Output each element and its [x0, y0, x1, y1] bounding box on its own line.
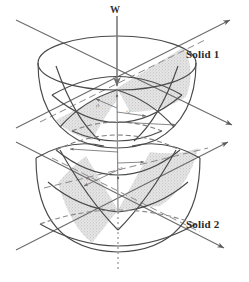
shaded-sector-upper-left — [56, 88, 117, 140]
w-axis-label: W — [110, 4, 120, 15]
dim-arrow-outer-lower — [70, 149, 118, 152]
figure-container: W Solid 1 Solid 2 r1 r2 r1 r2 — [0, 0, 249, 282]
dim-arrow-r2-upper — [117, 112, 146, 116]
w-axis-group — [117, 16, 118, 272]
solid-2-label: Solid 2 — [186, 218, 220, 230]
dim-arrow-r2-lower — [118, 162, 144, 163]
dimension-label-r2-lower: r2 — [118, 167, 122, 172]
dim-tick-lower — [117, 177, 119, 179]
dim-arrow-outer-upper — [117, 122, 176, 125]
solids-diagram-svg — [0, 0, 249, 282]
solid-1-label: Solid 1 — [186, 48, 220, 60]
dimension-label-r2-upper: r2 — [126, 110, 130, 115]
dim-tick-upper — [116, 95, 118, 97]
